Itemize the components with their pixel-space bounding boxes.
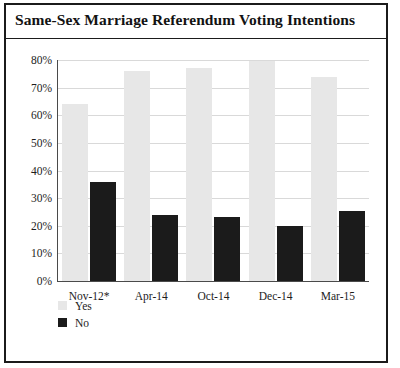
x-axis-tick-label: Oct-14 — [182, 290, 244, 302]
x-axis-tick-label: Mar-15 — [307, 290, 369, 302]
bar-no-Dec14 — [277, 226, 303, 281]
y-axis-tick-label: 40% — [31, 165, 52, 177]
page-title: Same-Sex Marriage Referendum Voting Inte… — [15, 11, 355, 29]
bar-yes-Oct14 — [186, 68, 212, 281]
legend-item-yes: Yes — [58, 297, 92, 314]
bar-yes-Mar15 — [311, 77, 337, 281]
bar-no-Apr14 — [152, 215, 178, 281]
y-axis-tick-label: 0% — [37, 275, 52, 287]
x-axis-tick-label: Dec-14 — [245, 290, 307, 302]
bar-group: Apr-14 — [120, 60, 182, 281]
bar-group: Nov-12* — [58, 60, 120, 281]
y-axis-tick-label: 10% — [31, 247, 52, 259]
legend-item-no: No — [58, 314, 92, 331]
plot-area: 0%10%20%30%40%50%60%70%80%Nov-12*Apr-14O… — [57, 60, 369, 282]
legend-swatch-no-icon — [58, 318, 67, 327]
bar-yes-Apr14 — [124, 71, 150, 281]
chart-figure: Same-Sex Marriage Referendum Voting Inte… — [4, 3, 388, 363]
legend-label-yes: Yes — [75, 300, 92, 312]
legend-label-no: No — [75, 317, 89, 329]
bar-yes-Nov12 — [62, 104, 88, 281]
bar-no-Mar15 — [339, 211, 365, 281]
y-axis-tick-label: 70% — [31, 82, 52, 94]
legend-swatch-yes-icon — [58, 301, 67, 310]
y-axis-tick-label: 50% — [31, 137, 52, 149]
title-bar: Same-Sex Marriage Referendum Voting Inte… — [6, 5, 386, 39]
y-axis-tick-label: 20% — [31, 220, 52, 232]
x-axis-tick-label: Apr-14 — [120, 290, 182, 302]
bar-group: Dec-14 — [245, 60, 307, 281]
y-axis-tick-label: 60% — [31, 109, 52, 121]
y-axis-tick-label: 80% — [31, 54, 52, 66]
bar-group: Oct-14 — [182, 60, 244, 281]
y-axis-tick-label: 30% — [31, 192, 52, 204]
bar-no-Nov12 — [90, 182, 116, 281]
chart-legend: Yes No — [58, 297, 92, 331]
bar-no-Oct14 — [214, 217, 240, 281]
bar-yes-Dec14 — [249, 61, 275, 281]
bar-group: Mar-15 — [307, 60, 369, 281]
